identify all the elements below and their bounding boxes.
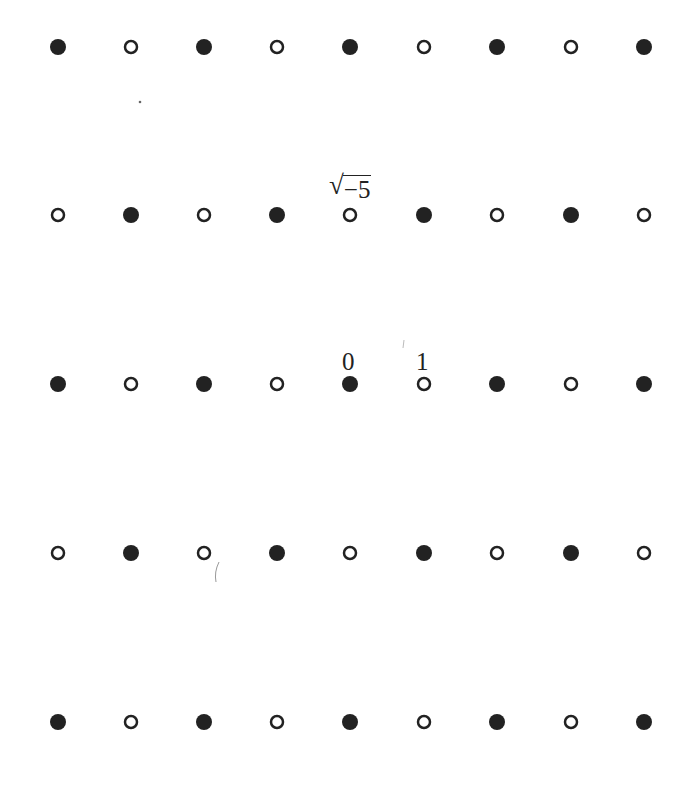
open-lattice-point [344,209,356,221]
open-lattice-point [125,378,137,390]
origin-label: 0 [342,349,355,374]
filled-lattice-point [563,545,579,561]
filled-lattice-point [489,714,505,730]
filled-lattice-point [342,39,358,55]
filled-lattice-point [50,714,66,730]
filled-lattice-point [342,376,358,392]
filled-lattice-point [196,376,212,392]
filled-lattice-point [50,39,66,55]
open-lattice-point [418,378,430,390]
filled-lattice-point [636,714,652,730]
open-lattice-point [125,41,137,53]
filled-lattice-point [269,545,285,561]
lattice-diagram: √ −5 0 1 [0,0,697,794]
lattice-points [0,0,697,794]
sqrt-icon: √ [329,172,344,199]
open-lattice-point [491,547,503,559]
open-lattice-point [344,547,356,559]
open-lattice-point [271,378,283,390]
filled-lattice-point [123,545,139,561]
open-lattice-point [565,716,577,728]
filled-lattice-point [50,376,66,392]
filled-lattice-point [416,545,432,561]
filled-lattice-point [342,714,358,730]
filled-lattice-point [489,376,505,392]
filled-lattice-point [489,39,505,55]
open-lattice-point [52,547,64,559]
open-lattice-point [565,41,577,53]
open-lattice-point [418,716,430,728]
filled-lattice-point [563,207,579,223]
open-lattice-point [271,716,283,728]
open-lattice-point [52,209,64,221]
open-lattice-point [491,209,503,221]
filled-lattice-point [196,714,212,730]
radicand-text: −5 [343,175,372,202]
sqrt-minus-five-label: √ −5 [329,172,371,202]
open-lattice-point [198,209,210,221]
filled-lattice-point [636,39,652,55]
filled-lattice-point [269,207,285,223]
filled-lattice-point [196,39,212,55]
filled-lattice-point [123,207,139,223]
open-lattice-point [271,41,283,53]
open-lattice-point [565,378,577,390]
filled-lattice-point [416,207,432,223]
open-lattice-point [198,547,210,559]
filled-lattice-point [636,376,652,392]
one-label: 1 [416,349,429,374]
open-lattice-point [638,547,650,559]
open-lattice-point [638,209,650,221]
open-lattice-point [418,41,430,53]
open-lattice-point [125,716,137,728]
